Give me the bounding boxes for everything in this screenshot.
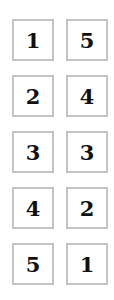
- right-cell-2[interactable]: 4: [66, 75, 108, 117]
- grid-row-1: 1 5: [12, 19, 108, 61]
- right-cell-3[interactable]: 3: [66, 131, 108, 173]
- left-cell-2[interactable]: 2: [12, 75, 54, 117]
- right-cell-1[interactable]: 5: [66, 19, 108, 61]
- grid-row-3: 3 3: [12, 131, 108, 173]
- left-cell-3[interactable]: 3: [12, 131, 54, 173]
- left-cell-5[interactable]: 5: [12, 243, 54, 285]
- left-cell-4[interactable]: 4: [12, 187, 54, 229]
- grid-row-4: 4 2: [12, 187, 108, 229]
- right-cell-4[interactable]: 2: [66, 187, 108, 229]
- grid-row-2: 2 4: [12, 75, 108, 117]
- left-cell-1[interactable]: 1: [12, 19, 54, 61]
- number-grid: 1 5 2 4 3 3 4 2 5 1: [12, 19, 108, 299]
- grid-row-5: 5 1: [12, 243, 108, 285]
- right-cell-5[interactable]: 1: [66, 243, 108, 285]
